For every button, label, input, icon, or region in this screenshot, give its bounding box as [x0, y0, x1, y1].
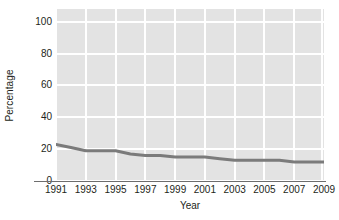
x-tick-label: 1993 [75, 184, 97, 196]
y-axis-title: Percentage [0, 0, 18, 190]
data-series-line [56, 9, 324, 181]
y-tick-label: 40 [41, 112, 52, 122]
y-tick-label: 100 [35, 17, 52, 27]
data-series-polyline [56, 144, 324, 162]
y-tick-label: 60 [41, 80, 52, 90]
x-tick-label: 1991 [45, 184, 67, 196]
x-tick-label: 1997 [134, 184, 156, 196]
x-tick-label: 1995 [104, 184, 126, 196]
x-tick-label: 1999 [164, 184, 186, 196]
x-tick-label: 2005 [253, 184, 275, 196]
x-tick-label: 2009 [313, 184, 335, 196]
x-axis-tick-labels: 1991199319951997199920012003200520072009 [56, 184, 324, 198]
y-tick-label: 80 [41, 49, 52, 59]
x-tick-label: 2003 [224, 184, 246, 196]
x-tick-label: 2007 [283, 184, 305, 196]
x-tick-label: 2001 [194, 184, 216, 196]
y-axis-tick-labels: 020406080100 [18, 9, 56, 181]
line-chart-figure: Percentage 020406080100 1991199319951997… [0, 0, 339, 220]
y-axis-title-label: Percentage [4, 69, 15, 121]
plot-area [56, 9, 324, 181]
x-axis-line [34, 181, 326, 182]
x-axis-title: Year [56, 200, 324, 211]
y-tick-label: 20 [41, 144, 52, 154]
